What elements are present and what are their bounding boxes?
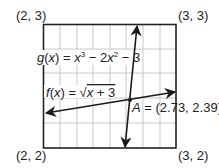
g-label: g(x) = x3 − 2x2 − 3	[37, 50, 140, 65]
intersection-label: A = (2.73, 2.39)	[131, 100, 219, 115]
f-label: f(x) = √x + 3	[46, 85, 115, 100]
graph: g(x) = x3 − 2x2 − 3 f(x) = √x + 3 A = (2…	[0, 0, 219, 168]
g-line	[125, 26, 137, 147]
